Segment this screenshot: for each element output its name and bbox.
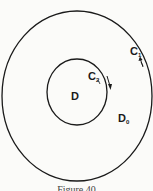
figure-annulus: C1 C2 D D0 Figure 40 xyxy=(0,0,153,191)
c1-letter: C xyxy=(130,45,138,57)
c1-subscript: 1 xyxy=(138,52,141,58)
curve-label-c1: C1 xyxy=(130,46,141,58)
region-label-d: D xyxy=(71,91,79,102)
region-label-d0: D0 xyxy=(118,113,129,125)
figure-caption: Figure 40 xyxy=(0,184,153,191)
d0-letter: D xyxy=(118,112,126,124)
c2-subscript: 2 xyxy=(96,77,99,83)
d0-subscript: 0 xyxy=(126,119,129,125)
c2-letter: C xyxy=(88,70,96,82)
d-letter: D xyxy=(71,90,79,102)
curve-label-c2: C2 xyxy=(88,71,99,83)
